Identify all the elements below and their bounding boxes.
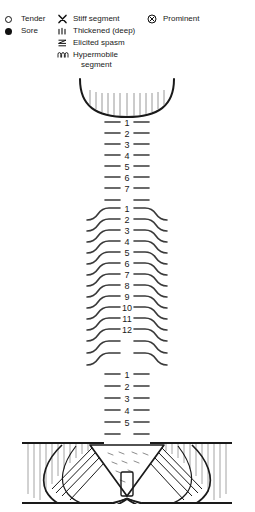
svg-text:6: 6	[124, 259, 129, 269]
legend: Tender Sore Stiff segment	[0, 14, 255, 72]
region-lumbar: 1 2 3 4 5	[105, 370, 149, 435]
vertebra-c4[interactable]: 4	[105, 151, 149, 161]
vertebra-thoracic-unlabeled-a[interactable]	[87, 341, 167, 353]
vertebra-c6[interactable]: 6	[105, 173, 149, 183]
legend-item-elicited-spasm: Elicited spasm	[57, 38, 135, 48]
spine-svg: 1 2 3 4 5	[0, 72, 255, 504]
svg-text:5: 5	[124, 162, 129, 172]
vertebra-l5[interactable]: 5	[105, 418, 149, 428]
legend-label: Sore	[21, 26, 38, 36]
svg-text:7: 7	[124, 270, 129, 280]
svg-text:3: 3	[124, 394, 129, 404]
svg-text:5: 5	[124, 418, 129, 428]
svg-text:9: 9	[124, 292, 129, 302]
si-lines-left	[52, 448, 104, 500]
legend-label: Hypermobile segment	[73, 50, 118, 70]
spine-diagram: 1 2 3 4 5	[0, 72, 255, 504]
svg-text:10: 10	[122, 303, 132, 313]
vertebra-c2[interactable]: 2	[105, 129, 149, 139]
svg-text:12: 12	[122, 325, 132, 335]
vertebra-c1[interactable]: 1	[105, 118, 149, 128]
legend-column-1: Tender Sore	[5, 14, 45, 38]
x-mark-icon	[57, 14, 70, 24]
svg-text:8: 8	[124, 281, 129, 291]
triple-tick-icon	[57, 26, 70, 36]
svg-text:7: 7	[124, 184, 129, 194]
svg-text:4: 4	[124, 406, 129, 416]
legend-label: Elicited spasm	[73, 38, 125, 48]
svg-text:3: 3	[124, 140, 129, 150]
legend-label: Prominent	[163, 14, 199, 24]
circle-cross-icon	[147, 14, 160, 24]
svg-text:1: 1	[124, 370, 129, 380]
legend-item-prominent: Prominent	[147, 14, 199, 24]
region-pelvis	[22, 443, 232, 504]
vertebra-c7[interactable]: 7	[105, 184, 149, 194]
spinal-exam-chart: Tender Sore Stiff segment	[0, 0, 255, 512]
legend-column-2: Stiff segment Thickened (deep) Elic	[57, 14, 135, 72]
si-lines-right	[150, 448, 202, 500]
svg-text:4: 4	[124, 237, 129, 247]
region-cervical: 1 2 3 4 5	[105, 118, 149, 201]
legend-column-3: Prominent	[147, 14, 199, 26]
legend-label-main: Hypermobile	[73, 50, 118, 59]
circle-open-icon	[5, 14, 18, 24]
vertebra-l2[interactable]: 2	[105, 382, 149, 392]
legend-item-tender: Tender	[5, 14, 45, 24]
vertebra-l1[interactable]: 1	[105, 370, 149, 380]
legend-item-thickened-deep: Thickened (deep)	[57, 26, 135, 36]
vertebra-c3[interactable]: 3	[105, 140, 149, 150]
legend-item-sore: Sore	[5, 26, 45, 36]
svg-text:4: 4	[124, 151, 129, 161]
svg-text:1: 1	[124, 118, 129, 128]
legend-label: Thickened (deep)	[73, 26, 135, 36]
zigzag-icon	[57, 38, 70, 48]
legend-item-stiff-segment: Stiff segment	[57, 14, 135, 24]
legend-item-hypermobile-segment: Hypermobile segment	[57, 50, 135, 70]
svg-text:1: 1	[124, 204, 129, 214]
svg-text:5: 5	[124, 248, 129, 258]
svg-text:6: 6	[124, 173, 129, 183]
svg-text:2: 2	[124, 382, 129, 392]
legend-label: Tender	[21, 14, 45, 24]
vertebra-c5[interactable]: 5	[105, 162, 149, 172]
vertebra-t12[interactable]: 12	[87, 325, 167, 342]
vertebra-l3[interactable]: 3	[105, 394, 149, 404]
occiput-curve	[80, 79, 174, 117]
vertebra-l4[interactable]: 4	[105, 406, 149, 416]
svg-text:11: 11	[122, 314, 131, 324]
svg-text:3: 3	[124, 226, 129, 236]
legend-label: Stiff segment	[73, 14, 120, 24]
svg-text:2: 2	[124, 129, 129, 139]
svg-text:2: 2	[124, 215, 129, 225]
circle-filled-icon	[5, 26, 18, 36]
wavy-icon	[57, 50, 70, 60]
region-thoracic: 1 2 3 4 5	[87, 204, 167, 366]
legend-label-sub: segment	[81, 60, 118, 70]
vertebra-thoracic-unlabeled-b[interactable]	[87, 353, 167, 365]
